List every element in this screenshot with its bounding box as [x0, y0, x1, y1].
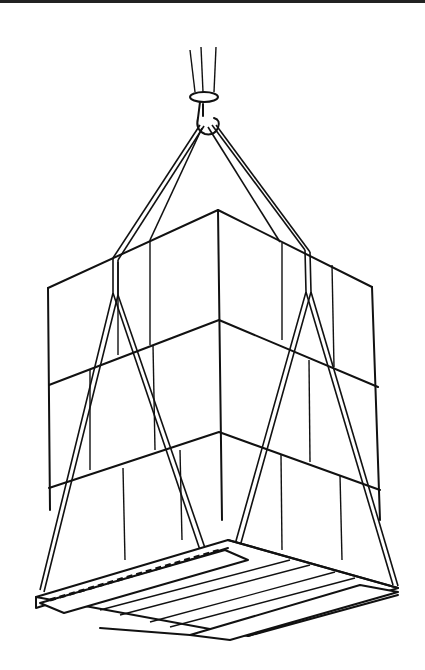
crane-cable	[190, 47, 216, 92]
slung-pallet-load-drawing	[0, 0, 425, 670]
box-stack	[48, 210, 380, 560]
lifting-slings-upper	[113, 125, 310, 260]
pallet	[36, 540, 398, 640]
illustration-frame	[0, 0, 425, 670]
